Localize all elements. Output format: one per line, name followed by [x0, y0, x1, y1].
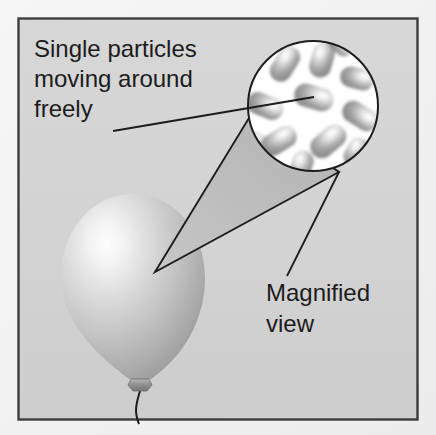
- figure-root: Single particles moving around freely Ma…: [0, 0, 436, 435]
- balloon-knot: [128, 379, 152, 391]
- particles-caption-line-2: moving around: [34, 65, 193, 92]
- particles-caption-line-3: freely: [34, 95, 93, 122]
- magnified-caption-line-1: Magnified: [266, 279, 370, 306]
- particles-caption-line-1: Single particles: [34, 35, 197, 62]
- diagram-canvas: Single particles moving around freely Ma…: [0, 0, 436, 435]
- magnified-caption-line-2: view: [266, 310, 315, 337]
